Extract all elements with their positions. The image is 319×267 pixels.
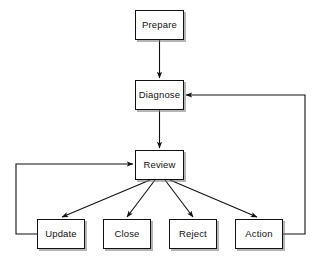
node-close-label: Close: [114, 229, 139, 239]
edge-review-to-reject: [165, 180, 193, 217]
node-review[interactable]: Review: [135, 150, 184, 180]
node-diagnose[interactable]: Diagnose: [135, 80, 184, 110]
edge-review-to-close: [127, 180, 155, 217]
flowchart-canvas: Prepare Diagnose Review Update Close Rej…: [0, 0, 319, 267]
node-diagnose-label: Diagnose: [139, 90, 180, 100]
node-close[interactable]: Close: [103, 219, 151, 249]
node-update-label: Update: [45, 229, 77, 239]
node-reject-label: Reject: [179, 229, 207, 239]
edge-review-to-action: [170, 180, 257, 217]
edge-review-to-update: [62, 180, 150, 217]
node-action-label: Action: [245, 229, 272, 239]
edge-action-to-diagnose: [186, 95, 305, 234]
node-reject[interactable]: Reject: [169, 219, 217, 249]
node-prepare[interactable]: Prepare: [135, 10, 184, 40]
node-prepare-label: Prepare: [142, 20, 177, 30]
node-update[interactable]: Update: [37, 219, 85, 249]
node-review-label: Review: [143, 160, 175, 170]
node-action[interactable]: Action: [235, 219, 283, 249]
